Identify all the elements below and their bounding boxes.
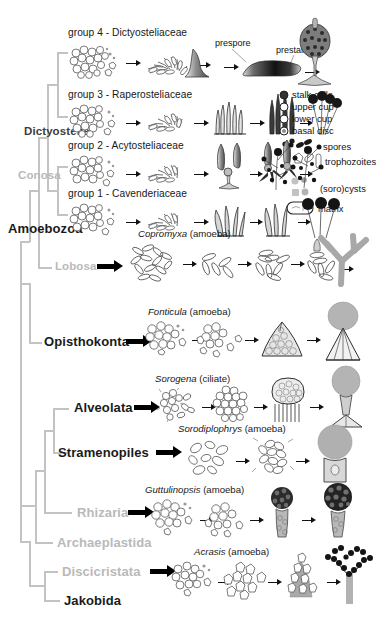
sorodiplophrys-suffix: (amoeba) — [242, 423, 286, 434]
taxon-label-archaeplastida[interactable]: Archaeplastida — [57, 536, 152, 549]
sorogena-genus: Sorogena — [155, 373, 197, 384]
copromyxa-suffix: (amoeba) — [187, 228, 231, 239]
copromyxa-arrow-1 — [183, 261, 198, 268]
row-label-group3: group 3 - Raperosteliaceae — [68, 90, 192, 100]
group2-stream-icon — [144, 161, 192, 187]
group2-sorogen-icon — [210, 142, 250, 190]
taxon-label-stramenopiles[interactable]: Stramenopiles — [58, 446, 149, 459]
row-label-acrasis: Acrasis (amoeba) — [194, 547, 269, 557]
group2-arrow-2 — [194, 171, 210, 178]
sorogena-mature-sorocarp-icon — [322, 365, 370, 429]
guttulinopsis-cluster-icon — [202, 501, 250, 539]
row-label-copromyxa: Copromyxa (amoeba) — [138, 229, 231, 239]
group2-arrow-1 — [126, 171, 142, 178]
group4-mound-icon — [180, 46, 220, 80]
row-label-sorogena: Sorogena (ciliate) — [155, 374, 230, 384]
group1-arrow-2 — [194, 219, 210, 226]
row-label-fonticula: Fonticula (amoeba) — [148, 307, 231, 317]
legend-label-lower-cup: lower cup — [292, 114, 332, 123]
acrasis-branched-sorocarp-icon — [322, 540, 378, 606]
legend-marker-stalk-cells — [279, 90, 289, 100]
group2-aggregate-icon — [66, 155, 122, 189]
fonticula-genus: Fonticula — [148, 306, 187, 317]
legend-marker-lower-cup — [279, 114, 289, 124]
fonticula-fruiting-body-icon — [318, 300, 368, 364]
acrasis-suffix: (amoeba) — [225, 546, 269, 557]
copromyxa-branched-sorocarp-icon — [315, 230, 375, 286]
row-label-sorodiplophrys: Sorodiplophrys (amoeba) — [178, 424, 286, 434]
sorodiplophrys-arrow-1 — [236, 458, 251, 465]
acrasis-developing-sorocarp-icon — [282, 553, 320, 601]
taxon-label-opisthokonta[interactable]: Opisthokonta — [44, 335, 129, 348]
group3-arrow-1 — [126, 120, 142, 127]
group3-arrow-2 — [194, 120, 210, 127]
taxon-label-jakobida[interactable]: Jakobida — [64, 594, 121, 607]
row-label-guttulinopsis: Guttulinopsis (amoeba) — [145, 485, 244, 495]
copromyxa-cells-icon — [200, 251, 236, 279]
sorodiplophrys-amoebae-icon — [186, 440, 236, 476]
guttulinopsis-mature-sorocarp-icon — [316, 482, 360, 540]
group4-arrow-1 — [126, 60, 142, 67]
copromyxa-amoebae-icon — [128, 243, 180, 283]
group3-early-sorogen-icon — [212, 98, 248, 136]
guttulinopsis-arrow-3 — [302, 517, 317, 524]
sorogena-ciliates-icon — [156, 388, 202, 422]
group3-arrow-3 — [250, 120, 266, 127]
sorogena-developing-sorocarp-icon — [268, 376, 308, 426]
taxon-label-lobosa[interactable]: Lobosa — [55, 261, 97, 273]
group4-fruiting-body-icon — [288, 16, 342, 88]
group4-aggregate-icon — [66, 44, 122, 80]
fonticula-cluster-icon — [194, 321, 244, 361]
acrasis-arrow-2 — [268, 579, 283, 586]
fonticula-aggregate-icon — [142, 321, 192, 355]
group2-branched-fruiting-icon — [258, 130, 326, 192]
group1-arrow-1 — [126, 219, 142, 226]
legend-label-sorocysts: (soro)cysts — [320, 184, 366, 193]
acrasis-cells-icon — [220, 561, 268, 601]
row-label-group1: group 1 - Cavenderiaceae — [68, 189, 187, 199]
sorodiplophrys-arrow-2 — [296, 458, 311, 465]
annotation-prespore: prespore — [215, 39, 251, 48]
legend-label-spores: spores — [323, 142, 351, 151]
sorodiplophrys-sorocarp-icon — [312, 424, 358, 484]
acrasis-aggregate-icon — [168, 561, 218, 599]
lobosa-arrow — [97, 260, 123, 273]
row-label-group4: group 4 - Dictyosteliaceae — [68, 28, 187, 38]
guttulinopsis-genus: Guttulinopsis — [145, 484, 200, 495]
legend-label-trophozoites: trophozoites — [325, 157, 376, 166]
copromyxa-genus: Copromyxa — [138, 228, 187, 239]
acrasis-genus: Acrasis — [194, 546, 225, 557]
guttulinopsis-aggregate-icon — [148, 499, 200, 537]
group3-aggregate-icon — [66, 104, 122, 138]
sorodiplophrys-genus: Sorodiplophrys — [178, 423, 242, 434]
legend-label-upper-cup: upper cup — [292, 102, 334, 111]
row-label-group2: group 2 - Acytosteliaceae — [68, 141, 184, 151]
group3-stream-icon — [144, 110, 192, 136]
guttulinopsis-young-sorocarp-icon — [264, 486, 300, 540]
taxon-label-discicristata[interactable]: Discicristata — [62, 565, 141, 578]
taxon-label-alveolata[interactable]: Alveolata — [74, 401, 133, 414]
taxon-label-rhizaria[interactable]: Rhizaria — [77, 506, 128, 519]
guttulinopsis-arrow-2 — [250, 517, 265, 524]
sorogena-suffix: (ciliate) — [197, 373, 231, 384]
legend-marker-upper-cup — [279, 102, 289, 112]
guttulinopsis-suffix: (amoeba) — [200, 484, 244, 495]
fonticula-suffix: (amoeba) — [187, 306, 231, 317]
group1-aggregate-icon — [66, 203, 122, 237]
legend-label-stalk-cells: stalk cells — [292, 90, 333, 99]
stramenopiles-arrow — [156, 446, 182, 459]
fonticula-volcano-mound-icon — [258, 318, 306, 360]
sorogena-aggregate-icon — [208, 384, 254, 424]
sorogena-arrow-2 — [254, 404, 269, 411]
sorodiplophrys-aggregate-icon — [250, 436, 296, 476]
taxon-label-conosa[interactable]: Conosa — [18, 170, 61, 182]
group1-sorogen2-icon — [262, 198, 296, 238]
copromyxa-aggregate-icon — [252, 247, 290, 281]
copromyxa-arrow-2 — [238, 261, 253, 268]
